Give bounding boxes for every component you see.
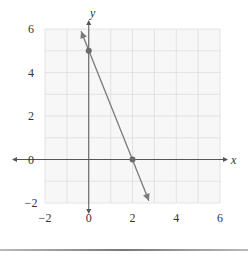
x-tick-label: 2 [130,211,136,225]
y-tick-label: −2 [25,196,38,210]
chart: −20246−20246 x y [0,0,248,254]
data-point [130,157,136,163]
x-axis-label: x [230,153,237,167]
y-axis-top-arrow [86,20,91,25]
x-axis-right-arrow [223,157,228,162]
y-tick-label: 2 [28,109,34,123]
x-tick-label: 6 [217,211,223,225]
y-tick-label: 0 [28,153,34,167]
y-axis-label: y [89,6,96,20]
y-tick-label: 6 [28,22,34,36]
y-tick-label: 4 [28,66,34,80]
data-point [86,48,92,54]
bottom-divider [0,249,248,251]
x-tick-label: 4 [173,211,179,225]
x-axis-left-arrow [12,157,17,162]
x-tick-label: 0 [86,211,92,225]
x-tick-label: −2 [39,211,52,225]
